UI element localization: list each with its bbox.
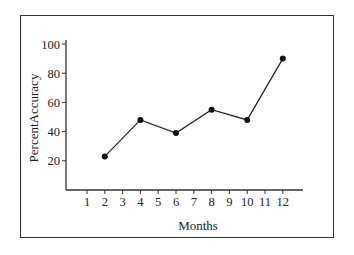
y-axis-label: PercentAccuracy xyxy=(26,73,41,162)
y-tick-label: 100 xyxy=(41,38,60,52)
x-axis-ticks: 123456789101112 xyxy=(84,190,289,209)
y-tick-label: 60 xyxy=(48,96,61,110)
x-tick-label: 3 xyxy=(119,195,125,209)
data-point xyxy=(102,153,108,159)
axes xyxy=(66,40,303,190)
y-tick-label: 80 xyxy=(48,67,61,81)
x-tick-label: 1 xyxy=(84,195,90,209)
y-axis-ticks: 20406080100 xyxy=(41,38,66,169)
data-point xyxy=(209,107,215,113)
x-tick-label: 4 xyxy=(137,195,144,209)
x-tick-label: 7 xyxy=(191,195,197,209)
data-point xyxy=(173,130,179,136)
x-tick-label: 2 xyxy=(102,195,108,209)
x-tick-label: 11 xyxy=(259,195,271,209)
y-tick-label: 20 xyxy=(48,154,61,168)
data-point xyxy=(244,117,250,123)
data-series xyxy=(102,56,286,160)
x-tick-label: 10 xyxy=(241,195,254,209)
data-point xyxy=(137,117,143,123)
x-tick-label: 12 xyxy=(277,195,290,209)
x-tick-label: 6 xyxy=(173,195,179,209)
data-point xyxy=(280,56,286,62)
line-chart: 20406080100 123456789101112 Months Perce… xyxy=(0,0,354,255)
x-tick-label: 5 xyxy=(155,195,161,209)
x-axis-label: Months xyxy=(178,218,218,233)
series-line xyxy=(105,59,283,157)
x-tick-label: 9 xyxy=(226,195,232,209)
x-tick-label: 8 xyxy=(208,195,214,209)
y-tick-label: 40 xyxy=(48,125,61,139)
